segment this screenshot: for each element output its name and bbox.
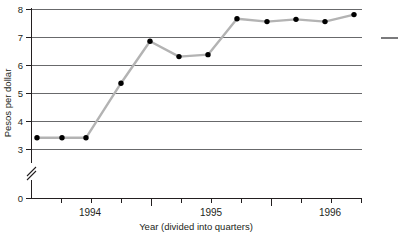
- y-tick-label-6: 6: [18, 60, 23, 71]
- data-point: [118, 81, 123, 86]
- data-point: [205, 52, 210, 57]
- data-point: [293, 17, 298, 22]
- chart-container: 8 7 6 5 4 3 0 1994 1995 1996: [0, 0, 398, 234]
- y-axis-break-icon: [27, 163, 36, 180]
- data-point: [34, 135, 39, 140]
- x-tick-label-1994: 1994: [79, 207, 102, 218]
- x-tick-label-1996: 1996: [319, 207, 342, 218]
- gridlines: [31, 9, 362, 149]
- y-axis-title: Pesos per dollar: [2, 69, 13, 138]
- data-point: [234, 16, 239, 21]
- data-point: [59, 135, 64, 140]
- y-tick-label-8: 8: [18, 4, 23, 15]
- x-tick-label-1995: 1995: [200, 207, 223, 218]
- series-line: [37, 15, 354, 138]
- data-point: [351, 12, 356, 17]
- y-tick-label-0: 0: [18, 193, 23, 204]
- y-tick-label-5: 5: [18, 88, 23, 99]
- data-point: [322, 19, 327, 24]
- x-axis-title: Year (divided into quarters): [139, 221, 253, 232]
- y-tick-label-4: 4: [18, 116, 23, 127]
- pesos-per-dollar-line-chart: 8 7 6 5 4 3 0 1994 1995 1996: [0, 0, 398, 234]
- data-point: [147, 39, 152, 44]
- data-point: [83, 135, 88, 140]
- x-axis-ticks: [61, 198, 361, 206]
- data-point: [264, 19, 269, 24]
- y-tick-label-7: 7: [18, 32, 23, 43]
- data-point: [176, 54, 181, 59]
- y-tick-label-3: 3: [18, 144, 23, 155]
